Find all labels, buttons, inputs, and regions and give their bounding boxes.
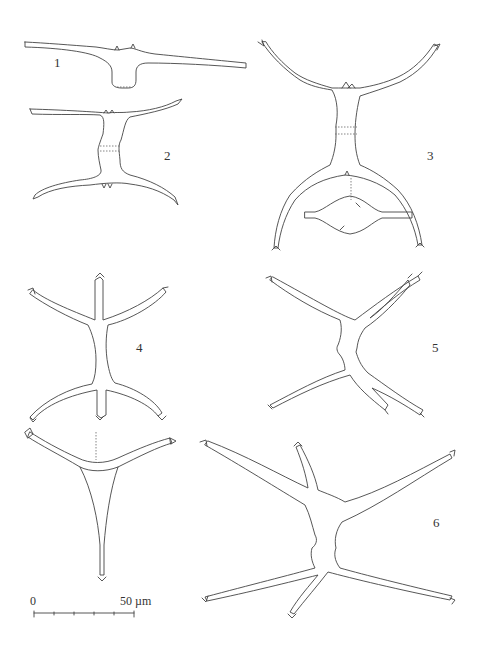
figure-3-drawing — [258, 40, 440, 250]
figure-4-drawing — [25, 273, 176, 581]
figure-2-label: 2 — [164, 148, 171, 164]
illustration-plate: 1 2 3 4 5 6 0 50 µm — [0, 0, 485, 653]
scale-start-label: 0 — [30, 594, 36, 609]
scale-bar — [34, 611, 134, 617]
figure-5-drawing — [266, 272, 424, 417]
figure-4-label: 4 — [136, 340, 143, 356]
plate-drawing — [0, 0, 485, 653]
figure-6-drawing — [200, 440, 455, 618]
figure-5-label: 5 — [432, 340, 439, 356]
figure-1-label: 1 — [54, 55, 61, 71]
figure-2-drawing — [30, 99, 182, 205]
figure-3-label: 3 — [427, 148, 434, 164]
scale-end-label: 50 µm — [120, 594, 151, 609]
figure-6-label: 6 — [433, 515, 440, 531]
